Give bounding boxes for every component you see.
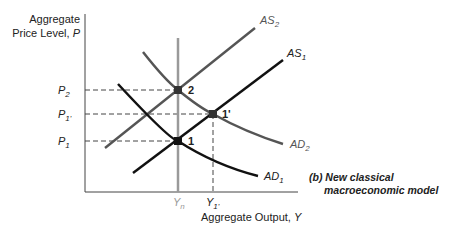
tick-p2: P2 xyxy=(58,84,70,99)
point-2-marker xyxy=(174,86,182,94)
caption-line1: (b) New classical xyxy=(309,171,395,183)
caption-line2: macroeconomic model xyxy=(324,184,439,196)
as2-label: AS2 xyxy=(259,14,280,29)
ad2-label: AD2 xyxy=(289,138,310,153)
as1-label: AS1 xyxy=(286,47,306,62)
tick-p1prime: P1' xyxy=(58,108,72,123)
tick-p1: P1 xyxy=(58,135,70,150)
point-1-marker xyxy=(174,137,182,145)
point-1prime-label: 1' xyxy=(222,108,231,120)
tick-yn: Yn xyxy=(173,196,185,211)
tick-y1prime: Y1' xyxy=(206,196,220,211)
point-2-label: 2 xyxy=(188,84,194,96)
ad1-label: AD1 xyxy=(263,170,284,185)
point-1prime-marker xyxy=(209,110,217,118)
y-axis-title-line2: Price Level, P xyxy=(12,27,81,39)
ad-as-diagram: 2 1' 1 Aggregate Price Level, P P2 P1' P… xyxy=(0,0,455,236)
point-1-label: 1 xyxy=(188,135,194,147)
x-axis-title: Aggregate Output, Y xyxy=(201,211,302,223)
y-axis-title-line1: Aggregate xyxy=(29,13,80,25)
as1-curve xyxy=(133,60,283,173)
